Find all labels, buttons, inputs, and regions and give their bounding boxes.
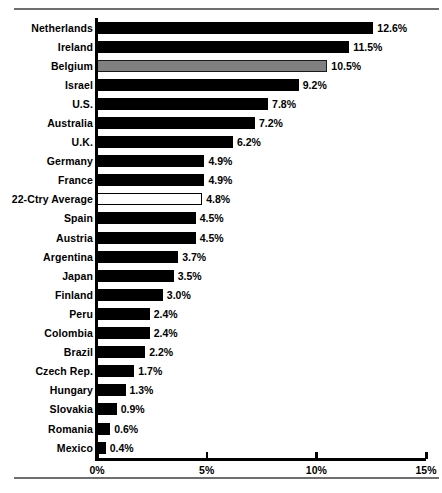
bar-track: [97, 365, 134, 377]
category-label: Czech Rep.: [35, 365, 93, 377]
bar-value-label: 12.6%: [373, 22, 407, 34]
bar: [97, 60, 327, 72]
bar-value-label: 4.8%: [202, 193, 230, 205]
category-label: U.S.: [72, 98, 93, 110]
bar-value-label: 2.2%: [145, 346, 173, 358]
bar-row: U.K.6.2%: [0, 133, 442, 152]
bar: [97, 22, 373, 34]
bar-track: [97, 60, 327, 72]
bar-value-label: 4.5%: [196, 212, 224, 224]
bar-row: Hungary1.3%: [0, 381, 442, 400]
bar-track: [97, 346, 145, 358]
category-label: Romania: [48, 423, 93, 435]
bar-value-label: 7.8%: [268, 98, 296, 110]
bar-track: [97, 98, 268, 110]
bar: [97, 117, 255, 129]
bar: [97, 232, 196, 244]
bar: [97, 346, 145, 358]
bar-track: [97, 308, 150, 320]
bar-value-label: 4.9%: [204, 155, 232, 167]
bar-row: Israel9.2%: [0, 75, 442, 94]
top-divider-rule: [14, 8, 439, 10]
category-label: Belgium: [51, 60, 93, 72]
chart-figure: Netherlands12.6%Ireland11.5%Belgium10.5%…: [0, 0, 442, 493]
category-label: Peru: [69, 308, 93, 320]
bar-track: [97, 423, 110, 435]
bar-row: Spain4.5%: [0, 209, 442, 228]
bar: [97, 384, 126, 396]
bar-rows-container: Netherlands12.6%Ireland11.5%Belgium10.5%…: [0, 18, 442, 457]
bar: [97, 289, 163, 301]
bar: [97, 193, 202, 205]
bar-row: 22-Ctry Average4.8%: [0, 190, 442, 209]
bar-track: [97, 79, 299, 91]
category-label: Hungary: [50, 384, 93, 396]
x-axis-tick-label: 5%: [199, 464, 214, 476]
x-axis-tick-label: 15%: [415, 464, 436, 476]
bar: [97, 327, 150, 339]
bar-row: Belgium10.5%: [0, 56, 442, 75]
category-label: Slovakia: [50, 403, 93, 415]
category-label: Netherlands: [31, 22, 93, 34]
bar-track: [97, 384, 126, 396]
bar: [97, 155, 204, 167]
category-label: Israel: [65, 79, 93, 91]
bar-row: France4.9%: [0, 171, 442, 190]
bar-row: Romania0.6%: [0, 419, 442, 438]
bar-track: [97, 117, 255, 129]
bar-row: Finland3.0%: [0, 285, 442, 304]
bar: [97, 423, 110, 435]
bar-value-label: 0.4%: [106, 442, 134, 454]
category-label: France: [58, 174, 93, 186]
bar-value-label: 3.5%: [174, 270, 202, 282]
category-label: 22-Ctry Average: [12, 193, 93, 205]
bar-row: Netherlands12.6%: [0, 18, 442, 37]
bar-value-label: 6.2%: [233, 136, 261, 148]
bar-value-label: 4.5%: [196, 232, 224, 244]
bar-value-label: 2.4%: [150, 327, 178, 339]
bar-track: [97, 232, 196, 244]
category-label: Mexico: [57, 442, 93, 454]
bar: [97, 174, 204, 186]
bar-track: [97, 41, 349, 53]
bar-track: [97, 193, 202, 205]
bar: [97, 403, 117, 415]
bar-track: [97, 212, 196, 224]
bar-track: [97, 136, 233, 148]
bar: [97, 136, 233, 148]
bar-value-label: 4.9%: [204, 174, 232, 186]
bar-track: [97, 22, 373, 34]
bar-row: Japan3.5%: [0, 266, 442, 285]
bar-track: [97, 251, 178, 263]
bar: [97, 442, 106, 454]
bar: [97, 251, 178, 263]
bar: [97, 365, 134, 377]
bar-track: [97, 442, 106, 454]
bar-row: Argentina3.7%: [0, 247, 442, 266]
bar: [97, 98, 268, 110]
category-label: Germany: [47, 155, 93, 167]
bar-value-label: 0.9%: [117, 403, 145, 415]
bar-row: Germany4.9%: [0, 152, 442, 171]
x-axis-tick-label: 10%: [306, 464, 327, 476]
category-label: Japan: [62, 270, 93, 282]
bar: [97, 41, 349, 53]
bar-row: Peru2.4%: [0, 304, 442, 323]
category-label: Spain: [64, 212, 93, 224]
category-label: U.K.: [72, 136, 93, 148]
bar-value-label: 2.4%: [150, 308, 178, 320]
bar-track: [97, 270, 174, 282]
category-label: Ireland: [58, 41, 93, 53]
bar-row: Ireland11.5%: [0, 37, 442, 56]
bottom-divider-rule: [14, 477, 439, 479]
bar-value-label: 9.2%: [299, 79, 327, 91]
bar: [97, 212, 196, 224]
category-label: Argentina: [43, 251, 93, 263]
category-label: Austria: [56, 232, 93, 244]
bar-value-label: 3.7%: [178, 251, 206, 263]
bar: [97, 270, 174, 282]
bar-row: Colombia2.4%: [0, 324, 442, 343]
bar-track: [97, 327, 150, 339]
bar-row: Mexico0.4%: [0, 438, 442, 457]
bar-row: Australia7.2%: [0, 113, 442, 132]
